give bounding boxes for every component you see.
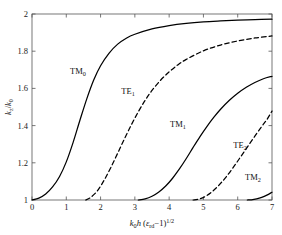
curve-label-base: TE: [121, 86, 131, 96]
y-tick-label: 1.8: [17, 46, 28, 56]
x-tick-label: 2: [98, 202, 102, 212]
curve-label-sub: 1: [183, 123, 186, 130]
curve-label-sub: 0: [83, 70, 86, 77]
x-tick-label: 4: [167, 202, 172, 212]
x-tick-label: 5: [201, 202, 205, 212]
x-tick-label: 7: [270, 202, 274, 212]
curve-label-base: TM: [245, 172, 258, 182]
y-tick-label: 1.4: [17, 121, 28, 131]
x-tick-label: 0: [30, 202, 34, 212]
curve-label-base: TM: [70, 66, 83, 76]
line-chart: 01234567 11.21.41.61.82 TM0TE1TM1TE2TM2 …: [0, 0, 282, 235]
y-label-k0-sub: 0: [7, 99, 14, 102]
curve-label-sub: 2: [258, 176, 261, 183]
x-tick-label: 6: [236, 202, 240, 212]
y-tick-label: 1.2: [17, 158, 28, 168]
curve-label-base: TE: [233, 140, 243, 150]
y-tick-label: 1.6: [17, 83, 28, 93]
y-tick-label: 2: [24, 9, 28, 19]
curve-label-sub: 2: [244, 144, 247, 151]
x-tick-label: 1: [64, 202, 68, 212]
y-tick-label: 1: [24, 195, 28, 205]
curve-label-base: TM: [170, 119, 183, 129]
figure-container: 01234567 11.21.41.61.82 TM0TE1TM1TE2TM2 …: [0, 0, 282, 235]
curve-label-sub: 1: [132, 90, 135, 97]
x-tick-label: 3: [133, 202, 137, 212]
x-label-minus-one: −1): [154, 218, 166, 228]
x-label-exp: 1/2: [166, 217, 174, 224]
